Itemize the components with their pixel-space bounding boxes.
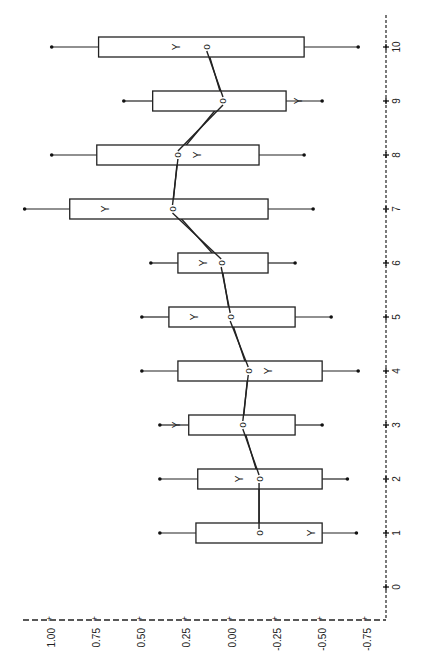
whisker-end-dot (346, 477, 350, 481)
median-connector-segment (178, 105, 223, 151)
y-marker: Y (198, 259, 209, 266)
median-connector-segment (243, 375, 248, 421)
y-marker: Y (171, 43, 182, 50)
whisker-end-dot (158, 423, 162, 427)
category-axis: 012345678910 (383, 15, 402, 620)
o-marker: o (254, 476, 265, 482)
category-tick-label: 3 (391, 422, 402, 428)
category-tick-label: 9 (391, 98, 402, 104)
category-tick-label: 1 (391, 530, 402, 536)
whisker-end-dot (320, 423, 324, 427)
value-tick-label: -0.75 (362, 628, 373, 651)
whisker-end-dot (355, 531, 359, 535)
whisker-end-dot (329, 315, 333, 319)
category-tick-label: 5 (391, 314, 402, 320)
box-plot-item: oY (23, 199, 315, 219)
value-tick-mark: + (47, 614, 52, 624)
value-tick-mark: + (227, 614, 232, 624)
y-marker: Y (234, 475, 245, 482)
box-plot-item: oY (158, 415, 324, 435)
o-marker: o (216, 260, 227, 266)
value-tick-mark: + (317, 614, 322, 624)
whisker-end-dot (50, 45, 54, 49)
category-tick-label: 0 (391, 584, 402, 590)
whisker-end-dot (320, 99, 324, 103)
median-connector-segment (173, 159, 178, 205)
median-connector-segment (243, 429, 259, 475)
whisker-end-dot (302, 153, 306, 157)
box-plot-item: oY (50, 37, 360, 57)
category-tick-label: 10 (391, 41, 402, 53)
whisker-end-dot (356, 369, 360, 373)
o-marker: o (201, 44, 212, 50)
category-tick-label: 6 (391, 260, 402, 266)
o-marker: o (172, 152, 183, 158)
whisker-end-dot (293, 261, 297, 265)
whisker-end-dot (158, 531, 162, 535)
y-marker: Y (171, 421, 182, 428)
median-connector-segment (221, 267, 230, 313)
category-tick-label: 2 (391, 476, 402, 482)
value-tick-label: -0.50 (317, 628, 328, 651)
median-connector-line (173, 47, 260, 533)
y-marker: Y (189, 313, 200, 320)
value-axis: +1.00+0.75+0.50+0.25+0.00+-0.25+-0.50+-0… (23, 614, 386, 651)
o-marker: o (254, 530, 265, 536)
value-tick-label: 0.50 (136, 628, 147, 648)
category-tick-label: 7 (391, 206, 402, 212)
o-marker: o (217, 98, 228, 104)
category-tick-label: 8 (391, 152, 402, 158)
box-plot-item: oY (158, 523, 358, 543)
value-tick-label: 0.00 (227, 628, 238, 648)
whisker-end-dot (140, 315, 144, 319)
y-marker: Y (192, 151, 203, 158)
o-marker: o (237, 422, 248, 428)
value-tick-mark: + (92, 614, 97, 624)
whisker-end-dot (122, 99, 126, 103)
box-plot-item: oY (122, 91, 324, 111)
value-tick-label: 0.25 (181, 628, 192, 648)
o-marker: o (167, 206, 178, 212)
value-tick-mark: + (362, 614, 367, 624)
median-connector-polyline (173, 47, 260, 533)
category-tick-label: 4 (391, 368, 402, 374)
box-plot-item: oY (140, 361, 360, 381)
value-tick-mark: + (272, 614, 277, 624)
value-tick-label: -0.25 (272, 628, 283, 651)
whisker-end-dot (311, 207, 315, 211)
y-marker: Y (100, 205, 111, 212)
box-plot-item: oY (149, 253, 297, 273)
whisker-end-dot (50, 153, 54, 157)
box-series: oYoYoYoYoYoYoYoYoYoY (23, 37, 360, 543)
median-connector-segment (230, 321, 248, 367)
median-connector-segment (173, 213, 222, 259)
box-plot-chart: +1.00+0.75+0.50+0.25+0.00+-0.25+-0.50+-0… (0, 0, 422, 669)
whisker-end-dot (23, 207, 27, 211)
value-tick-label: 1.00 (46, 628, 57, 648)
whisker-end-dot (149, 261, 153, 265)
median-connector-segment (207, 51, 223, 97)
value-tick-mark: + (137, 614, 142, 624)
value-tick-mark: + (182, 614, 187, 624)
box-plot-item: oY (158, 469, 349, 489)
box-plot-item: oY (140, 307, 333, 327)
whisker-end-dot (140, 369, 144, 373)
o-marker: o (243, 368, 254, 374)
y-marker: Y (306, 529, 317, 536)
y-marker: Y (263, 367, 274, 374)
whisker-end-dot (158, 477, 162, 481)
value-tick-label: 0.75 (91, 628, 102, 648)
y-marker: Y (293, 97, 304, 104)
o-marker: o (225, 314, 236, 320)
whisker-end-dot (356, 45, 360, 49)
